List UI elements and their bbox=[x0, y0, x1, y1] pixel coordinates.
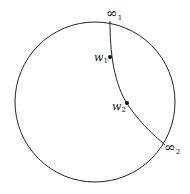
diagram-svg: ∞1w1w2∞2 bbox=[0, 0, 190, 194]
w1-label: w1 bbox=[94, 51, 108, 65]
w1-dot bbox=[108, 55, 112, 59]
inf1-label: ∞1 bbox=[106, 5, 122, 22]
points-group: ∞1w1w2∞2 bbox=[94, 5, 180, 156]
geodesic-diagram: ∞1w1w2∞2 bbox=[0, 0, 190, 194]
w2-label: w2 bbox=[112, 100, 126, 114]
geodesic-arc bbox=[110, 21, 165, 145]
inf2-label: ∞2 bbox=[164, 139, 180, 156]
w2-dot bbox=[125, 101, 129, 105]
boundary-circle bbox=[15, 22, 175, 182]
